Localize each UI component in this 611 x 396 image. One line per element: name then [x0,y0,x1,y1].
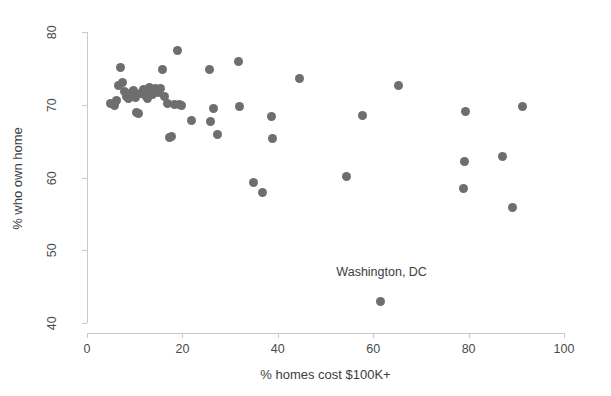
x-tick-60 [373,333,374,338]
x-tick-label-60: 60 [353,343,393,356]
data-point[interactable] [268,134,277,143]
x-tick-label-0: 0 [67,343,107,356]
y-tick-60 [82,178,87,179]
y-axis-line [87,32,88,323]
data-point[interactable] [156,84,165,93]
data-point[interactable] [112,96,121,105]
data-point[interactable] [295,74,304,83]
y-tick-40 [82,323,87,324]
data-point[interactable] [234,57,243,66]
x-tick-80 [469,333,470,338]
x-tick-label-100: 100 [544,343,584,356]
x-tick-0 [87,333,88,338]
x-tick-20 [182,333,183,338]
data-point[interactable] [206,117,215,126]
annotation-label: Washington, DC [336,266,427,279]
y-tick-80 [82,32,87,33]
y-tick-label-50: 50 [46,236,59,266]
data-point[interactable] [376,297,385,306]
scatter-chart: 4050607080020406080100% who own home% ho… [0,0,611,396]
data-point[interactable] [209,104,218,113]
data-point[interactable] [134,109,143,118]
data-point[interactable] [358,111,367,120]
x-tick-40 [278,333,279,338]
data-point[interactable] [118,78,127,87]
x-tick-label-40: 40 [258,343,298,356]
x-tick-label-80: 80 [449,343,489,356]
y-tick-label-60: 60 [46,163,59,193]
data-point[interactable] [459,184,468,193]
x-axis-title: % homes cost $100K+ [87,368,564,381]
data-point[interactable] [267,112,276,121]
data-point[interactable] [394,81,403,90]
data-point[interactable] [249,178,258,187]
x-tick-label-20: 20 [162,343,202,356]
data-point[interactable] [235,102,244,111]
data-point[interactable] [460,157,469,166]
plot-area: 4050607080020406080100% who own home% ho… [0,0,611,396]
data-point[interactable] [461,107,470,116]
y-tick-50 [82,250,87,251]
data-point[interactable] [116,63,125,72]
data-point[interactable] [187,116,196,125]
y-tick-label-80: 80 [46,17,59,47]
y-tick-label-70: 70 [46,90,59,120]
data-point[interactable] [518,102,527,111]
data-point[interactable] [498,152,507,161]
x-tick-100 [564,333,565,338]
data-point[interactable] [213,130,222,139]
x-axis-line [87,333,564,334]
data-point[interactable] [258,188,267,197]
data-point[interactable] [342,172,351,181]
data-point[interactable] [508,203,517,212]
data-point[interactable] [173,46,182,55]
data-point[interactable] [167,132,176,141]
data-point[interactable] [177,101,186,110]
y-tick-label-40: 40 [46,308,59,338]
y-tick-70 [82,105,87,106]
y-axis-title: % who own home [11,78,24,278]
data-point[interactable] [205,65,214,74]
data-point[interactable] [158,65,167,74]
